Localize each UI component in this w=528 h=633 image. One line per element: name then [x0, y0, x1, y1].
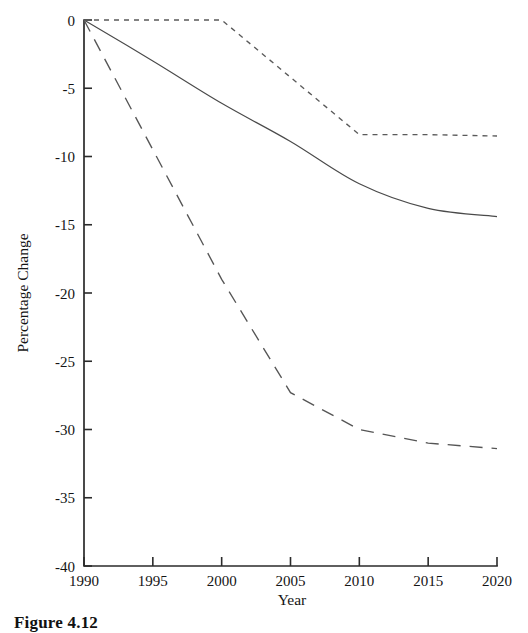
y-tick-label: -30 — [55, 422, 75, 438]
x-tick-label: 1995 — [138, 573, 168, 589]
series-dotted-line — [84, 20, 497, 136]
series-solid-line — [84, 20, 497, 217]
x-axis-ticks: 1990199520002005201020152020 — [69, 557, 512, 589]
x-tick-label: 2000 — [207, 573, 237, 589]
x-tick-label: 2010 — [344, 573, 374, 589]
x-tick-label: 1990 — [69, 573, 99, 589]
figure-caption: Figure 4.12 — [14, 613, 98, 633]
x-tick-label: 2020 — [482, 573, 512, 589]
y-tick-label: -20 — [55, 286, 75, 302]
data-series-group — [84, 20, 497, 449]
y-tick-label: -35 — [55, 490, 75, 506]
y-axis-title: Percentage Change — [14, 233, 31, 352]
y-tick-label: -10 — [55, 149, 75, 165]
x-axis-title: Year — [278, 591, 307, 608]
y-tick-label: 0 — [68, 13, 76, 29]
x-tick-label: 2005 — [276, 573, 306, 589]
series-long-dashed-line — [84, 20, 497, 449]
y-tick-label: -25 — [55, 354, 75, 370]
y-tick-label: -15 — [55, 217, 75, 233]
x-tick-label: 2015 — [413, 573, 443, 589]
y-tick-label: -5 — [63, 81, 76, 97]
axis-lines — [84, 20, 497, 566]
y-axis-ticks: 0-5-10-15-20-25-30-35-40 — [55, 13, 92, 575]
